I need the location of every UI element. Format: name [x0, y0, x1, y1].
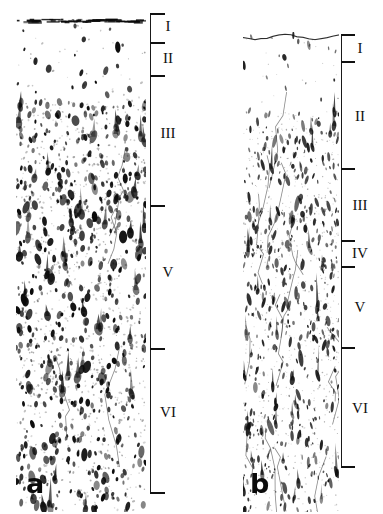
layer-label-iii: III: [353, 197, 368, 214]
layer-tick: [341, 61, 355, 63]
layer-label-iii: III: [161, 125, 176, 142]
layer-label-ii: II: [163, 50, 173, 67]
layer-tick: [150, 348, 165, 350]
panel-a-letter: a: [26, 470, 44, 497]
layer-label-v: V: [163, 264, 174, 281]
layer-tick: [341, 347, 355, 349]
layer-tick: [150, 75, 165, 77]
layer-label-vi: VI: [352, 400, 368, 417]
layer-tick: [341, 266, 355, 268]
layer-tick: [150, 205, 165, 207]
panel-b-micrograph: [243, 32, 339, 512]
layer-label-i: I: [358, 40, 363, 57]
panel-b-scale-axis: [341, 34, 342, 466]
panel-a-scale-axis: [150, 13, 151, 492]
panel-b-texture-canvas: [243, 32, 339, 512]
layer-label-vi: VI: [160, 404, 176, 421]
layer-label-i: I: [166, 18, 171, 35]
panel-a-micrograph: [16, 18, 146, 512]
layer-tick: [150, 492, 165, 494]
panel-b-letter: b: [250, 470, 269, 497]
layer-tick: [150, 13, 165, 15]
layer-label-iv: IV: [352, 245, 368, 262]
layer-tick: [341, 34, 355, 36]
layer-tick: [341, 240, 355, 242]
figure-root: IIIIIIVVI a IIIIIIIVVVI b: [0, 0, 383, 514]
layer-label-v: V: [355, 299, 366, 316]
layer-label-ii: II: [355, 108, 365, 125]
layer-tick: [150, 42, 165, 44]
panel-a-texture-canvas: [16, 18, 146, 512]
layer-tick: [341, 466, 355, 468]
layer-tick: [341, 168, 355, 170]
